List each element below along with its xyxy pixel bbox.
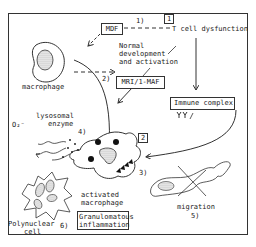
normal-development-label-3: and activation: [119, 58, 178, 66]
normal-development-label-2: development: [119, 50, 165, 58]
immune-complex-box: Immune complex: [170, 97, 235, 110]
polynuclear-cell-label-2: cell: [24, 228, 41, 236]
lysosomal-enzyme-label-2: enzyme: [48, 120, 73, 128]
diagram-artwork: [0, 0, 256, 247]
migration-label: migration: [177, 203, 215, 211]
o2-label: O₂⁻: [12, 121, 25, 129]
polynuclear-cell-label-1: Polynuclear: [8, 220, 54, 228]
marker-2: 2: [138, 133, 148, 143]
polynuclear-cell-icon: [22, 172, 72, 220]
activated-macrophage-label-2: macrophage: [81, 199, 123, 207]
marker-1: 1: [164, 14, 174, 24]
step-6-label: 6): [60, 222, 68, 230]
mdf-box: MDF: [101, 23, 123, 35]
lysosomal-enzyme-label-1: lysosomal: [36, 112, 74, 120]
macrophage-label: macrophage: [22, 83, 64, 91]
granulomatous-label-1: Granulomatous: [79, 213, 127, 221]
step-5-label: 5): [191, 212, 199, 220]
step-1-label: 1): [136, 17, 144, 25]
step-2-label: 2): [102, 75, 110, 83]
step-4-label: 4): [78, 128, 86, 136]
activated-macrophage-icon: [70, 132, 141, 178]
migrating-cell-icon: [151, 162, 231, 197]
mri-maf-box: MRI/1-MAF: [116, 76, 165, 89]
antibody-icon: [177, 112, 193, 119]
step-3-label: 3): [139, 169, 147, 177]
granulomatous-inflammation-box: Granulomatous inflammation: [77, 211, 129, 230]
t-cell-dysfunction-label: T cell dysfunction: [172, 25, 248, 33]
granulomatous-label-2: inflammation: [79, 221, 127, 229]
normal-development-label-1: Normal: [119, 42, 144, 50]
activated-macrophage-label-1: activated: [81, 191, 119, 199]
macrophage-cell-icon: [32, 42, 64, 82]
